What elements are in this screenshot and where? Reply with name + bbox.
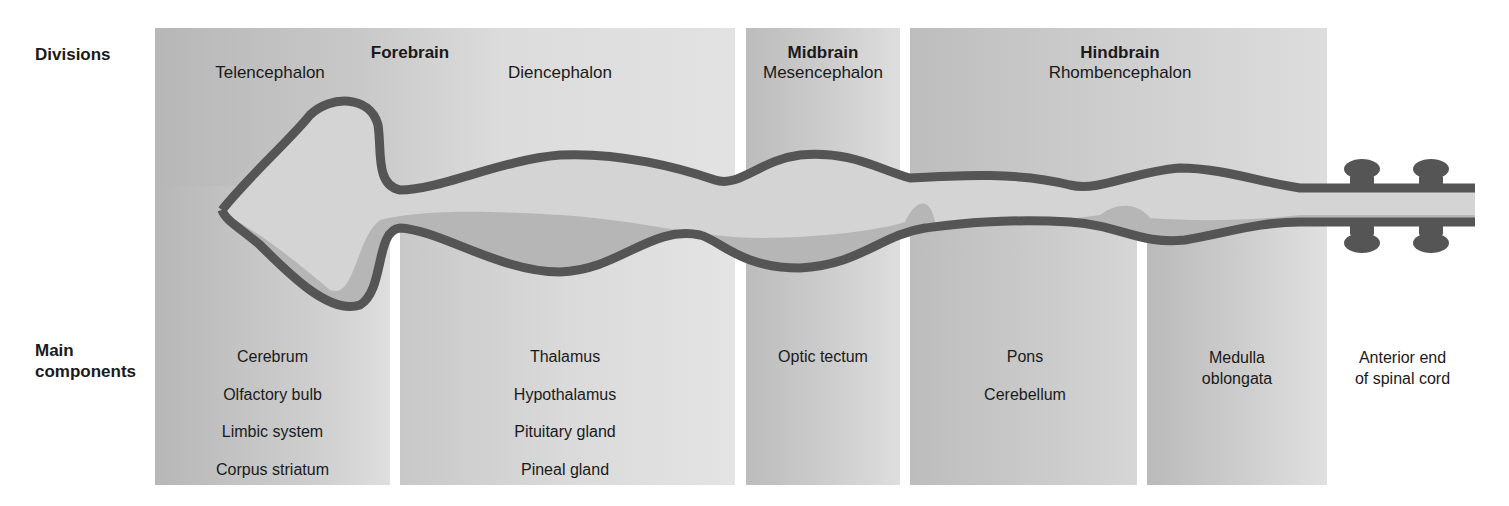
diencephalon-label: Diencephalon bbox=[490, 63, 630, 83]
main-components-row-label: Main components bbox=[35, 340, 136, 382]
component-pituitary-gland: Pituitary gland bbox=[475, 413, 655, 451]
component-optic-tectum: Optic tectum bbox=[746, 338, 900, 376]
component-medulla-line2: oblongata bbox=[1147, 368, 1327, 389]
main-components-label-line2: components bbox=[35, 361, 136, 382]
tube-lumen bbox=[222, 101, 1475, 307]
midbrain-title: Midbrain bbox=[746, 43, 900, 63]
component-limbic-system: Limbic system bbox=[155, 413, 390, 451]
hindbrain-title: Hindbrain bbox=[1030, 43, 1210, 63]
component-thalamus: Thalamus bbox=[475, 338, 655, 376]
spinal-cord-line2: of spinal cord bbox=[1330, 368, 1475, 389]
component-hypothalamus: Hypothalamus bbox=[475, 376, 655, 414]
spinal-cord-line1: Anterior end bbox=[1330, 347, 1475, 368]
component-medulla-line1: Medulla bbox=[1147, 347, 1327, 368]
component-olfactory-bulb: Olfactory bulb bbox=[155, 376, 390, 414]
forebrain-title: Forebrain bbox=[360, 43, 460, 63]
rhombencephalon-label: Rhombencephalon bbox=[1030, 63, 1210, 83]
pons-components: Pons Cerebellum bbox=[950, 338, 1100, 413]
divisions-row-label: Divisions bbox=[35, 44, 111, 65]
telencephalon-components: Cerebrum Olfactory bulb Limbic system Co… bbox=[155, 338, 390, 488]
mesencephalon-components: Optic tectum bbox=[746, 338, 900, 376]
component-corpus-striatum: Corpus striatum bbox=[155, 451, 390, 489]
component-cerebellum: Cerebellum bbox=[950, 376, 1100, 414]
main-components-label-line1: Main bbox=[35, 340, 136, 361]
component-pons: Pons bbox=[950, 338, 1100, 376]
medulla-components: Medulla oblongata bbox=[1147, 347, 1327, 389]
telencephalon-label: Telencephalon bbox=[190, 63, 350, 83]
component-pineal-gland: Pineal gland bbox=[475, 451, 655, 489]
spinal-cord-components: Anterior end of spinal cord bbox=[1330, 347, 1475, 389]
diencephalon-components: Thalamus Hypothalamus Pituitary gland Pi… bbox=[475, 338, 655, 488]
mesencephalon-label: Mesencephalon bbox=[746, 63, 900, 83]
component-cerebrum: Cerebrum bbox=[155, 338, 390, 376]
